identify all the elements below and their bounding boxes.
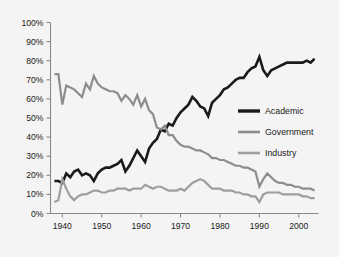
y-axis-tick-label: 20% [26,170,44,180]
y-axis-tick-label: 70% [26,75,44,85]
chart-svg: 0%10%20%30%40%50%60%70%80%90%100% 194019… [0,0,339,257]
y-axis-ticks: 0%10%20%30%40%50%60%70%80%90%100% [22,18,51,219]
y-axis-tick-label: 30% [26,151,44,161]
x-axis-tick-label: 1990 [250,221,269,231]
x-axis-tick-label: 1970 [171,221,190,231]
x-axis-tick-label: 1950 [92,221,111,231]
x-axis-tick-label: 2000 [289,221,308,231]
legend-label-government: Government [265,127,314,137]
y-axis-tick-label: 10% [26,189,44,199]
y-axis-tick-label: 100% [22,18,44,28]
y-axis-tick-label: 50% [26,113,44,123]
x-axis-tick-label: 1940 [53,221,72,231]
y-axis-tick-label: 40% [26,132,44,142]
x-axis-tick-label: 1980 [210,221,229,231]
x-axis-ticks: 1940195019601970198019902000 [53,214,309,231]
x-axis-tick-label: 1960 [132,221,151,231]
chart-plot-area: 0%10%20%30%40%50%60%70%80%90%100% 194019… [0,0,339,257]
y-axis-tick-label: 80% [26,56,44,66]
chart-container: 0%10%20%30%40%50%60%70%80%90%100% 194019… [0,0,339,257]
legend-label-industry: Industry [265,148,297,158]
y-axis-tick-label: 90% [26,37,44,47]
y-axis-tick-label: 60% [26,94,44,104]
y-axis-tick-label: 0% [31,209,44,219]
legend-label-academic: Academic [265,106,304,116]
chart-legend: AcademicGovernmentIndustry [238,106,314,158]
